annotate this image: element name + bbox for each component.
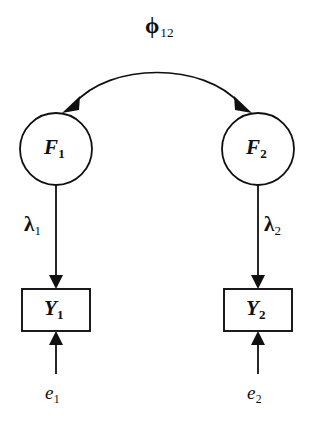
phi-subscript: 12 bbox=[160, 25, 174, 40]
lambda1-glyph: λ bbox=[24, 212, 34, 236]
f2-subscript: 2 bbox=[260, 146, 267, 161]
covariance-arrowhead-left bbox=[62, 96, 80, 113]
residual-arrowhead-e2 bbox=[251, 331, 265, 345]
loading-label-lambda2: λ2 bbox=[264, 214, 281, 235]
f1-glyph: F bbox=[44, 135, 58, 159]
lambda2-glyph: λ bbox=[264, 212, 274, 236]
e1-subscript: 1 bbox=[54, 393, 60, 406]
e2-glyph: e bbox=[247, 382, 255, 403]
loading-path-lambda2 bbox=[251, 185, 265, 289]
y1-glyph: Y bbox=[44, 296, 57, 320]
covariance-path-phi12 bbox=[62, 73, 252, 114]
lambda1-subscript: 1 bbox=[35, 223, 42, 238]
latent-factor-label-f2: F2 bbox=[246, 137, 267, 158]
y1-subscript: 1 bbox=[57, 307, 64, 322]
residual-path-e1 bbox=[49, 331, 63, 374]
covariance-arrowhead-right bbox=[234, 96, 252, 113]
residual-path-e2 bbox=[251, 331, 265, 374]
error-term-label-e2: e2 bbox=[247, 383, 262, 402]
covariance-label-phi12: ϕ12 bbox=[145, 14, 173, 37]
sem-path-diagram-figure: ϕ12 F1 F2 λ1 λ2 Y1 Y2 e1 e2 bbox=[0, 0, 316, 431]
observed-variable-label-y2: Y2 bbox=[246, 298, 266, 319]
loading-arrowhead-lambda2 bbox=[251, 275, 265, 289]
e2-subscript: 2 bbox=[256, 393, 262, 406]
e1-glyph: e bbox=[45, 382, 53, 403]
loading-path-lambda1 bbox=[49, 185, 63, 289]
lambda2-subscript: 2 bbox=[275, 223, 282, 238]
latent-factor-label-f1: F1 bbox=[44, 137, 65, 158]
observed-variable-label-y1: Y1 bbox=[44, 298, 64, 319]
loading-label-lambda1: λ1 bbox=[24, 214, 41, 235]
phi-glyph: ϕ bbox=[145, 13, 159, 38]
residual-arrowhead-e1 bbox=[49, 331, 63, 345]
f2-glyph: F bbox=[246, 135, 260, 159]
loading-arrowhead-lambda1 bbox=[49, 275, 63, 289]
covariance-curve bbox=[74, 73, 240, 105]
error-term-label-e1: e1 bbox=[45, 383, 60, 402]
y2-glyph: Y bbox=[246, 296, 259, 320]
f1-subscript: 1 bbox=[58, 146, 65, 161]
y2-subscript: 2 bbox=[259, 307, 266, 322]
